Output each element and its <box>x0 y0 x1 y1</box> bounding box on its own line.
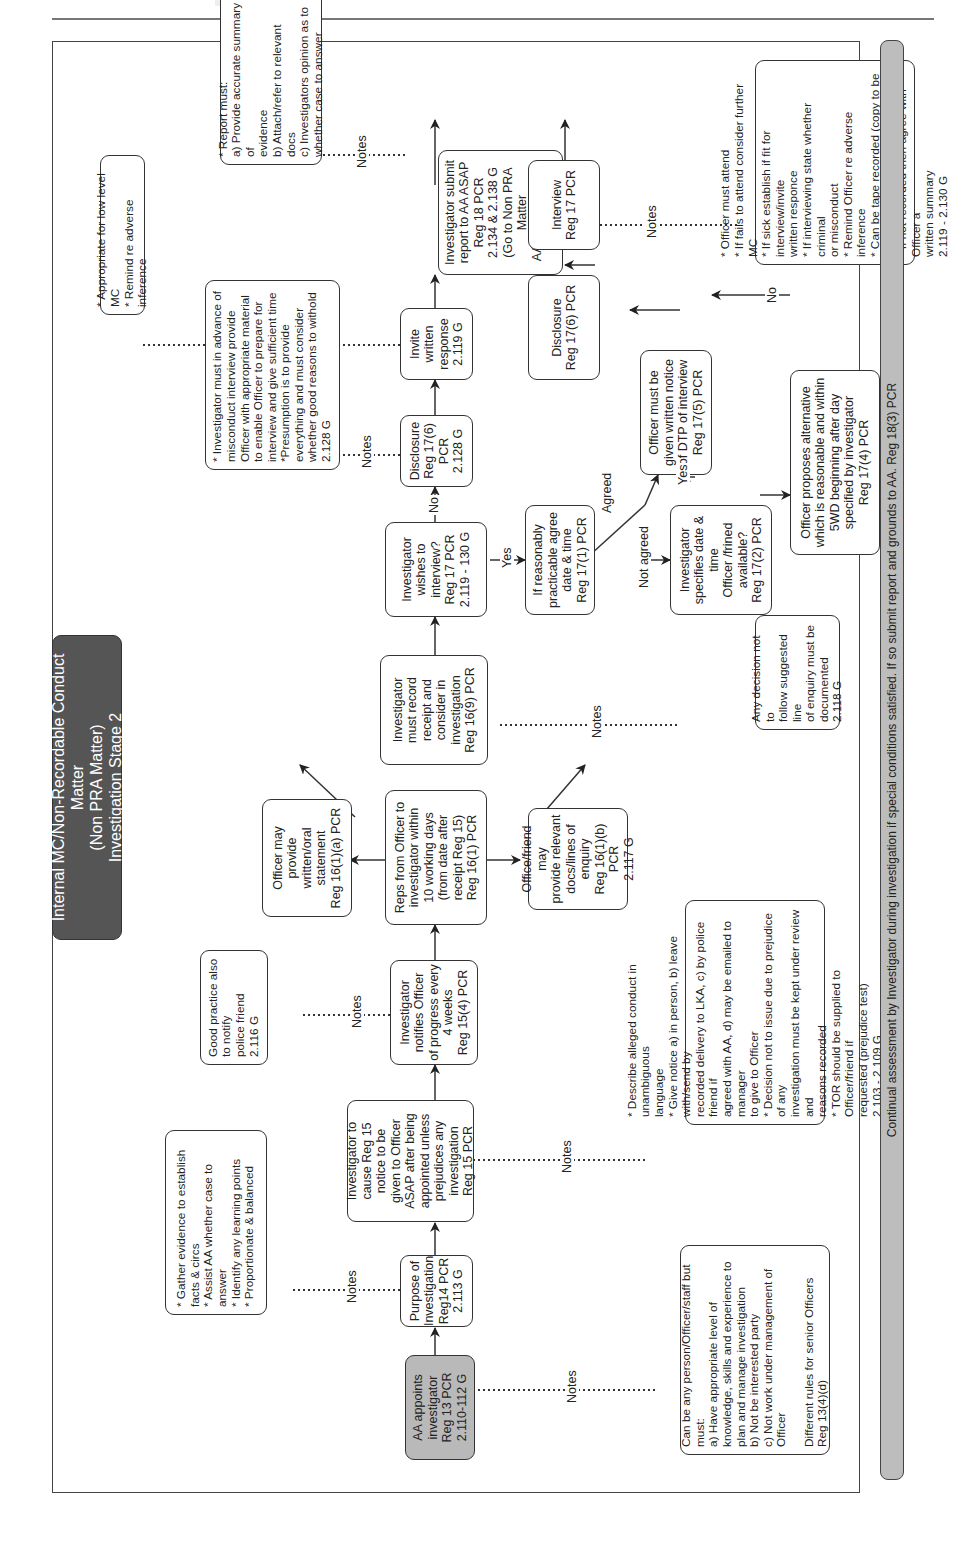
note-disclosure: * Investigator must in advance of miscon… <box>205 280 340 470</box>
notes-link-label: Notes <box>645 203 659 240</box>
note-report: * Report must: a) Provide accurate summa… <box>220 0 322 165</box>
continual-assessment-banner: Continual assessment by Investigator dur… <box>880 40 904 1480</box>
node-purpose: Purpose of Investigation Reg14 PCR 2.113… <box>400 1255 473 1327</box>
node-specifies-date: Investigator specifies date & time Offic… <box>670 505 772 615</box>
node-disclosure-interview: Disclosure Reg 17(6) PCR <box>528 275 600 380</box>
edge-label-no: No <box>427 495 441 515</box>
notes-link-label: Notes <box>355 133 369 170</box>
edge-label-no-2: No <box>765 285 779 305</box>
node-officer-statement: Officer may provide written/oral stateme… <box>262 799 352 917</box>
note-reg15: * Describe alleged conduct in unambiguou… <box>685 900 825 1125</box>
node-reps-from-officer: Reps from Officer to investigator within… <box>385 790 487 925</box>
notes-link-label: Notes <box>345 1268 359 1305</box>
notes-link-label: Notes <box>565 1368 579 1405</box>
node-agree-date: If reasonably practicable agree date & t… <box>525 505 595 615</box>
edge-label-yes-2: Yes <box>676 463 690 487</box>
notes-link-label: Notes <box>590 703 604 740</box>
node-officer-proposes: Officer proposes alternative which is re… <box>790 370 880 555</box>
flowchart-landscape: Internal MC/Non-Recordable Conduct Matte… <box>0 0 967 1555</box>
notes-link-label: Notes <box>360 433 374 470</box>
edge-label-agreed: Agreed <box>600 471 614 515</box>
note-record-receipt: Any decision not to follow suggested lin… <box>755 615 840 730</box>
note-progress: Good practice also to notify police frie… <box>200 950 268 1065</box>
node-written-notice: Officer must be given written notice of … <box>640 350 712 475</box>
note-purpose: * Gather evidence to establish facts & c… <box>165 1130 267 1315</box>
edge-label-not-agreed: Not agreed <box>637 524 651 590</box>
node-disclosure-written: Disclosure Reg 17(6) PCR 2.128 G <box>400 415 473 487</box>
edge-label-yes: Yes <box>500 546 514 570</box>
node-reg15-notice: Investigator to cause Reg 15 notice to b… <box>347 1100 474 1222</box>
note-aa-appoints: Can be any person/Officer/staff but must… <box>680 1245 830 1455</box>
node-officer-friend-docs: Office/friend may provide relevant docs/… <box>528 808 628 910</box>
node-wishes-interview: Investigator wishes to interview? Reg 17… <box>385 522 487 617</box>
notes-link-label: Notes <box>560 1138 574 1175</box>
node-record-receipt: Investigator must record receipt and con… <box>380 655 488 765</box>
note-invite-written: * Appropriate for low level MC * Remind … <box>100 155 145 315</box>
node-interview: Interview Reg 17 PCR <box>528 160 600 250</box>
node-invite-written: Invite written response 2.119 G <box>400 308 473 380</box>
node-aa-appoints: AA appoints investigator Reg 13 PCR 2.11… <box>405 1355 475 1460</box>
node-notifies-progress: Investigator notifies Officer of progres… <box>390 960 478 1065</box>
notes-link-label: Notes <box>350 993 364 1030</box>
chart-title: Internal MC/Non-Recordable Conduct Matte… <box>52 635 122 940</box>
